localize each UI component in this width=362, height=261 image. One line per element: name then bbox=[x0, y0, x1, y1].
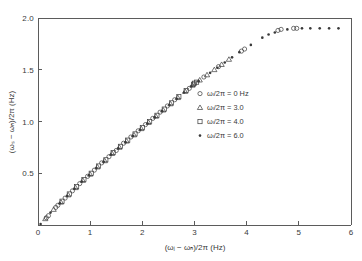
legend-label: ωₗ/2π = 4.0 bbox=[207, 117, 244, 126]
scatter-plot: 0123456 0.51.01.52.0 ωₗ/2π = 0 Hzωₗ/2π =… bbox=[0, 0, 362, 261]
dot-marker bbox=[250, 44, 253, 47]
dot-marker bbox=[309, 27, 312, 30]
x-axis-title: (ωᵢ − ωₕ)/2π (Hz) bbox=[165, 243, 226, 252]
dot-marker bbox=[183, 91, 186, 94]
x-axis-ticks bbox=[38, 221, 351, 225]
dot-marker bbox=[95, 167, 98, 170]
dot-marker bbox=[59, 202, 62, 205]
dot-marker bbox=[175, 97, 178, 100]
square-marker bbox=[198, 120, 202, 124]
dot-marker bbox=[73, 187, 76, 190]
triangle-marker bbox=[197, 105, 202, 110]
dot-marker bbox=[286, 28, 289, 31]
circle-marker bbox=[198, 92, 202, 96]
x-tick-label: 5 bbox=[297, 228, 302, 237]
dot-marker bbox=[318, 27, 321, 30]
dot-marker bbox=[49, 211, 52, 214]
series-circle bbox=[44, 26, 299, 220]
dot-marker bbox=[161, 110, 164, 113]
dot-marker bbox=[223, 61, 226, 64]
y-tick-label: 0.5 bbox=[22, 169, 34, 178]
dot-marker bbox=[261, 36, 264, 39]
y-tick-label: 1.0 bbox=[22, 118, 34, 127]
y-axis-title: (ωₛ − ωₕ)/2π (Hz) bbox=[7, 90, 16, 153]
x-tick-label: 1 bbox=[88, 228, 93, 237]
triangle-marker bbox=[51, 207, 56, 212]
dot-marker bbox=[88, 174, 91, 177]
dot-marker bbox=[209, 72, 212, 75]
dot-marker bbox=[197, 80, 200, 83]
x-axis-tick-labels: 0123456 bbox=[36, 228, 354, 237]
y-tick-label: 1.5 bbox=[22, 66, 34, 75]
dot-marker bbox=[231, 56, 234, 59]
legend-label: ωₗ/2π = 0 Hz bbox=[207, 89, 249, 98]
dot-marker bbox=[190, 85, 193, 88]
x-tick-label: 6 bbox=[349, 228, 354, 237]
dot-marker bbox=[216, 66, 219, 69]
series-dot bbox=[39, 27, 339, 225]
dot-marker bbox=[274, 31, 277, 34]
dot-marker bbox=[328, 27, 331, 30]
dot-marker bbox=[267, 33, 270, 36]
dot-marker bbox=[124, 141, 127, 144]
dot-marker bbox=[39, 223, 42, 226]
triangle-marker bbox=[43, 216, 48, 221]
y-axis-ticks bbox=[38, 18, 42, 173]
dot-marker bbox=[301, 27, 304, 30]
dot-marker bbox=[102, 161, 105, 164]
plot-frame bbox=[38, 18, 351, 225]
dot-marker bbox=[117, 147, 120, 150]
y-tick-label: 2.0 bbox=[22, 14, 34, 23]
y-axis-tick-labels: 0.51.01.52.0 bbox=[22, 14, 34, 178]
dot-marker bbox=[81, 180, 84, 183]
figure-container: 0123456 0.51.01.52.0 ωₗ/2π = 0 Hzωₗ/2π =… bbox=[0, 0, 362, 261]
dot-marker bbox=[146, 122, 149, 125]
data-point-group bbox=[39, 26, 339, 225]
x-tick-label: 4 bbox=[244, 228, 249, 237]
dot-marker bbox=[110, 153, 113, 156]
circle-marker bbox=[295, 26, 299, 30]
dot-marker bbox=[154, 116, 157, 119]
dot-marker bbox=[66, 195, 69, 198]
dot-marker bbox=[139, 128, 142, 131]
dot-marker bbox=[132, 135, 135, 138]
legend-label: ωₗ/2π = 3.0 bbox=[207, 103, 244, 112]
circle-marker bbox=[242, 47, 246, 51]
dot-marker bbox=[168, 104, 171, 107]
legend-label: ωₗ/2π = 6.0 bbox=[207, 131, 244, 140]
dot-marker bbox=[238, 51, 241, 54]
x-tick-label: 2 bbox=[140, 228, 145, 237]
x-tick-label: 3 bbox=[192, 228, 197, 237]
legend: ωₗ/2π = 0 Hzωₗ/2π = 3.0ωₗ/2π = 4.0ωₗ/2π … bbox=[197, 89, 249, 140]
x-tick-label: 0 bbox=[36, 228, 41, 237]
dot-marker bbox=[337, 27, 340, 30]
dot-marker bbox=[199, 134, 202, 137]
